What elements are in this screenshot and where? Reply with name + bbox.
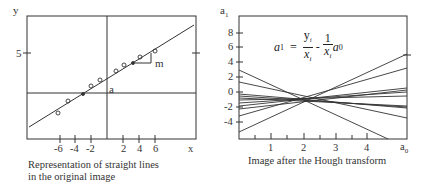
eq-equals: = — [290, 40, 297, 55]
left-y-tick-label: 5 — [16, 47, 22, 59]
slope-triangle — [135, 53, 151, 63]
left-caption-line1: Representation of straight lines — [28, 159, 159, 171]
y-tick-label: 6 — [228, 41, 233, 53]
eq-fraction-1: yi xi — [303, 29, 313, 65]
slope-label: m — [155, 57, 164, 69]
left-caption-line2: in the original image — [28, 171, 115, 183]
x-tick-label: -2 — [86, 143, 95, 155]
intercept-label: a — [109, 83, 114, 95]
eq-lhs-sub: 1 — [280, 43, 284, 52]
left-x-axis-label: x — [188, 143, 193, 155]
y-tick-label: 0 — [228, 86, 233, 98]
x-tick-label: 4 — [137, 143, 142, 155]
right-x-axis-label: a0 — [400, 141, 408, 157]
x-tick-label: 2 — [121, 143, 126, 155]
y-tick-label: -2 — [224, 101, 233, 113]
y-tick-label: 2 — [228, 71, 233, 83]
left-y-axis-label: y — [13, 4, 19, 16]
fitted-line — [29, 25, 194, 127]
x-tick-label: 6 — [153, 143, 158, 155]
eq-tail-sub: 0 — [339, 43, 343, 52]
hough-lines — [239, 54, 407, 139]
left-plot-frame — [27, 16, 196, 139]
x-tick-label: -6 — [54, 143, 63, 155]
hough-equation: a1 = yi xi - 1 xi a0 — [274, 33, 343, 61]
x-tick-label: -4 — [70, 143, 79, 155]
y-tick-label: -4 — [224, 116, 233, 128]
x-tick-label: 4 — [364, 142, 369, 154]
y-tick-label: 4 — [228, 56, 233, 68]
x-tick-label: 3 — [333, 142, 338, 154]
x-tick-label: 2 — [301, 142, 306, 154]
x-tick-label: 1 — [268, 142, 273, 154]
left-plot — [23, 16, 200, 143]
right-y-axis-label: a1 — [220, 4, 228, 21]
y-tick-label: 8 — [228, 27, 233, 39]
x-ticks-right — [255, 133, 367, 139]
right-caption: Image after the Hough transform — [248, 155, 386, 167]
eq-fraction-2: 1 xi — [323, 32, 333, 62]
eq-minus: - — [316, 40, 320, 55]
